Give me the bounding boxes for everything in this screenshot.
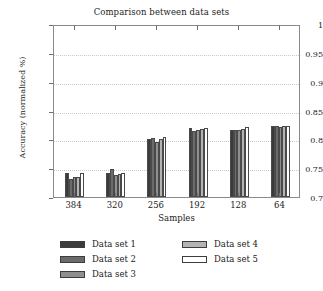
y-tick-mark [49, 25, 53, 26]
bar [163, 137, 167, 197]
chart-figure: Comparison between data sets Accuracy (n… [0, 0, 323, 291]
legend-label: Data set 5 [214, 252, 258, 267]
x-tick-mark [197, 193, 198, 198]
y-axis-title: Accuracy (normalized %) [18, 18, 27, 198]
legend-label: Data set 2 [92, 252, 136, 267]
legend-column-1: Data set 1Data set 2Data set 3 [60, 236, 136, 281]
x-tick-mark-top [279, 25, 280, 30]
x-tick-mark-top [238, 25, 239, 30]
y-tick-label: 0.75 [275, 165, 323, 174]
y-tick-label: 0.85 [275, 107, 323, 116]
x-tick-label: 256 [148, 200, 164, 210]
gridline [54, 55, 299, 56]
plot-area [53, 25, 300, 198]
bar [80, 173, 84, 197]
y-tick-label: 0.9 [275, 78, 323, 87]
bar-group [230, 26, 249, 197]
legend-swatch [60, 271, 85, 278]
x-tick-mark-top [197, 25, 198, 30]
y-tick-mark [49, 198, 53, 199]
y-tick-mark [49, 140, 53, 141]
y-tick-label: 1 [275, 21, 323, 30]
legend-label: Data set 3 [92, 267, 136, 282]
y-tick-mark [49, 83, 53, 84]
x-tick-mark [238, 193, 239, 198]
x-tick-label: 384 [65, 200, 81, 210]
x-tick-mark [156, 193, 157, 198]
x-tick-mark [279, 193, 280, 198]
y-tick-label: 0.8 [275, 136, 323, 145]
legend-entry: Data set 1 [60, 236, 136, 251]
y-tick-mark [49, 112, 53, 113]
legend-swatch [182, 241, 207, 248]
x-tick-mark-top [74, 25, 75, 30]
bar-group [106, 26, 125, 197]
legend-swatch [182, 256, 207, 263]
x-tick-label: 128 [230, 200, 246, 210]
x-tick-mark-top [115, 25, 116, 30]
gridline [54, 84, 299, 85]
x-tick-label: 320 [107, 200, 123, 210]
bar [121, 173, 125, 197]
y-tick-mark [49, 169, 53, 170]
bar-group [147, 26, 166, 197]
legend-entry: Data set 2 [60, 251, 136, 266]
x-tick-mark-top [156, 25, 157, 30]
legend-entry: Data set 5 [182, 251, 258, 266]
legend-column-2: Data set 4Data set 5 [182, 236, 258, 266]
x-tick-label: 64 [274, 200, 285, 210]
gridline [54, 141, 299, 142]
bar [245, 127, 249, 197]
y-tick-mark [49, 54, 53, 55]
legend-swatch [60, 256, 85, 263]
chart-legend: Data set 1Data set 2Data set 3 Data set … [0, 236, 323, 288]
x-tick-label: 192 [189, 200, 205, 210]
legend-swatch [60, 241, 85, 248]
bar [204, 128, 208, 197]
legend-entry: Data set 4 [182, 236, 258, 251]
bar-group [65, 26, 84, 197]
chart-title: Comparison between data sets [0, 7, 323, 17]
gridline [54, 113, 299, 114]
legend-label: Data set 4 [214, 237, 258, 252]
x-tick-mark [115, 193, 116, 198]
y-tick-label: 0.95 [275, 49, 323, 58]
x-axis-title: Samples [53, 213, 300, 223]
bar-group [189, 26, 208, 197]
gridline [54, 170, 299, 171]
legend-label: Data set 1 [92, 237, 136, 252]
legend-entry: Data set 3 [60, 266, 136, 281]
x-tick-mark [74, 193, 75, 198]
